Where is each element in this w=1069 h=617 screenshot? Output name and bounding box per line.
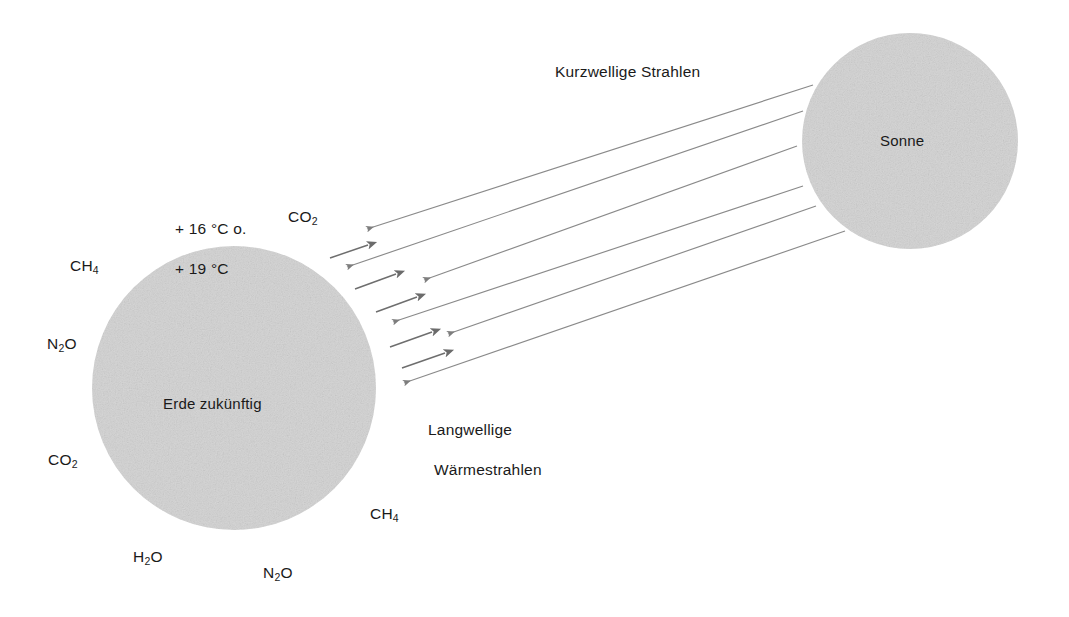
shortwave-ray-3 [424,146,797,280]
gas-label-subscript: 4 [93,264,99,276]
shortwave-ray-1 [367,85,813,229]
shortwave-rays-group [347,85,845,383]
shortwave-ray-4 [393,186,803,322]
gas-label-formula-tail: O [64,335,76,352]
longwave-ray-3 [376,297,417,312]
shortwave-ray-6 [404,231,845,383]
gas-label-subscript: 2 [72,458,78,470]
gas-label-formula-tail: O [150,548,162,565]
gas-label-subscript: 2 [312,215,318,227]
earth-label: Erde zukünftig [163,394,262,413]
gas-label-formula: H [133,548,144,565]
gas-label-formula: N [47,335,58,352]
shortwave-rays-label: Kurzwellige Strahlen [555,62,700,81]
gas-label-ch4-upper-left: CH4 [70,256,99,277]
longwave-ray-4 [390,332,432,347]
gas-label-co2-top: CO2 [288,207,318,228]
gas-label-formula: N [263,564,274,581]
longwave-ray-2 [355,274,396,289]
temperature-line-2: + 19 °C [175,260,229,277]
temperature-annotation: + 16 °C o. + 19 °C [157,199,247,299]
longwave-rays-label: Langwellige Wärmestrahlen [410,400,542,500]
gas-label-subscript: 2 [274,571,280,583]
shortwave-ray-5 [448,206,816,334]
gas-label-subscript: 4 [393,512,399,524]
longwave-ray-1 [330,245,368,258]
gas-label-n2o-left: N2O [47,334,77,355]
gas-label-ch4-lower-right: CH4 [370,504,399,525]
temperature-line-1: + 16 °C o. [175,220,247,237]
gas-label-subscript: 2 [144,555,150,567]
gas-label-subscript: 2 [58,342,64,354]
longwave-ray-5 [402,353,445,368]
gas-label-formula: CH [370,505,393,522]
longwave-rays-label-line2: Wärmestrahlen [434,460,542,480]
diagram-canvas: Erde zukünftig Sonne Kurzwellige Strahle… [0,0,1069,617]
gas-label-h2o-bottom: H2O [133,547,163,568]
gas-label-co2-lower-left: CO2 [48,450,78,471]
gas-label-formula: CH [70,257,93,274]
longwave-rays-label-line1: Langwellige [428,421,512,438]
gas-label-formula-tail: O [280,564,292,581]
diagram-svg [0,0,1069,617]
gas-label-n2o-bottom: N2O [263,563,293,584]
sun-label: Sonne [880,131,924,150]
gas-label-formula: CO [48,451,72,468]
gas-label-formula: CO [288,208,312,225]
shortwave-ray-2 [347,111,803,267]
